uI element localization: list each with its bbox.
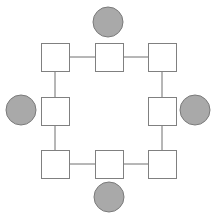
circle-node-top <box>93 7 123 37</box>
edges-group <box>55 57 162 164</box>
square-ring-diagram <box>0 0 216 214</box>
square-node-bottom-left <box>42 151 70 179</box>
circles-group <box>6 7 210 212</box>
square-node-bottom-right <box>149 151 177 179</box>
circle-node-left <box>6 95 36 125</box>
squares-group <box>42 44 177 179</box>
square-node-bottom-middle <box>96 151 124 179</box>
circle-node-bottom <box>94 182 124 212</box>
circle-node-right <box>180 95 210 125</box>
square-node-top-right <box>149 44 177 72</box>
square-node-top-middle <box>96 44 124 72</box>
square-node-middle-right <box>149 98 177 126</box>
square-node-middle-left <box>42 98 70 126</box>
square-node-top-left <box>42 44 70 72</box>
